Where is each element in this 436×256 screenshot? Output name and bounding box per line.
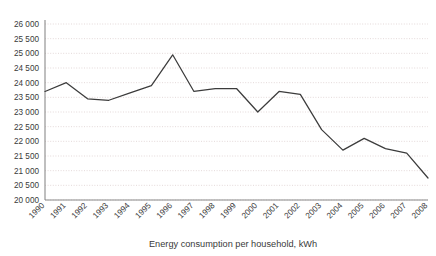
y-axis-tick-label: 25 000 xyxy=(14,49,39,58)
x-axis-tick-label: 1991 xyxy=(48,201,68,221)
y-axis-tick-label: 25 500 xyxy=(14,35,39,44)
y-axis-tick-label: 20 000 xyxy=(14,196,39,205)
x-axis-tick-label: 2003 xyxy=(304,201,324,221)
x-axis-tick-label: 1998 xyxy=(197,201,217,221)
x-axis-tick-label: 2004 xyxy=(325,201,345,221)
y-axis-tick-label: 21 000 xyxy=(14,167,39,176)
x-axis-tick-labels: 1990199119921993199419951996199719981999… xyxy=(27,201,430,221)
x-axis-tick-label: 1992 xyxy=(70,201,90,221)
y-axis-tick-label: 23 000 xyxy=(14,108,39,117)
x-axis-tick-label: 1999 xyxy=(219,201,239,221)
x-axis-tick-label: 1997 xyxy=(176,201,196,221)
x-axis-tick-label: 2000 xyxy=(240,201,260,221)
data-series-line xyxy=(45,55,428,178)
x-axis-tick-label: 2005 xyxy=(346,201,366,221)
x-axis-tick-label: 2006 xyxy=(368,201,388,221)
y-axis-tick-label: 23 500 xyxy=(14,93,39,102)
chart-plot-area: 26 00025 50025 00024 50024 00023 50023 0… xyxy=(0,0,436,256)
gridlines xyxy=(45,24,428,200)
x-axis-tick-label: 1995 xyxy=(134,201,154,221)
y-axis-tick-labels: 26 00025 50025 00024 50024 00023 50023 0… xyxy=(14,20,39,205)
y-axis-tick-label: 24 000 xyxy=(14,79,39,88)
x-axis-tick-label: 2002 xyxy=(283,201,303,221)
energy-consumption-line-chart: 26 00025 50025 00024 50024 00023 50023 0… xyxy=(0,0,436,256)
x-axis-tick-label: 2008 xyxy=(410,201,430,221)
x-axis-tick-label: 1996 xyxy=(155,201,175,221)
x-axis-tick-label: 1994 xyxy=(112,201,132,221)
y-axis-tick-label: 22 000 xyxy=(14,137,39,146)
x-axis-tick-label: 2007 xyxy=(389,201,409,221)
y-axis-tick-label: 24 500 xyxy=(14,64,39,73)
y-axis-tick-label: 26 000 xyxy=(14,20,39,29)
x-axis-tick-label: 1993 xyxy=(91,201,111,221)
y-axis-tick-label: 21 500 xyxy=(14,152,39,161)
y-axis-tick-label: 20 500 xyxy=(14,181,39,190)
x-axis-title: Energy consumption per household, kWh xyxy=(149,239,317,249)
y-axis-tick-label: 22 500 xyxy=(14,123,39,132)
x-axis-tick-label: 2001 xyxy=(261,201,281,221)
